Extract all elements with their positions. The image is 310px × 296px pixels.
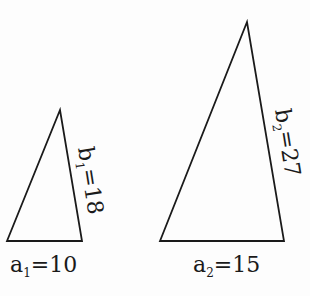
- triangle-large: [160, 22, 284, 241]
- similar-triangles-diagram: a1=10 a2=15 b1=18 b2=27: [0, 0, 310, 296]
- label-a2: a2=15: [193, 252, 260, 280]
- label-a1: a1=10: [10, 252, 77, 280]
- triangle-small: [7, 110, 82, 241]
- label-b2: b2=27: [267, 107, 305, 179]
